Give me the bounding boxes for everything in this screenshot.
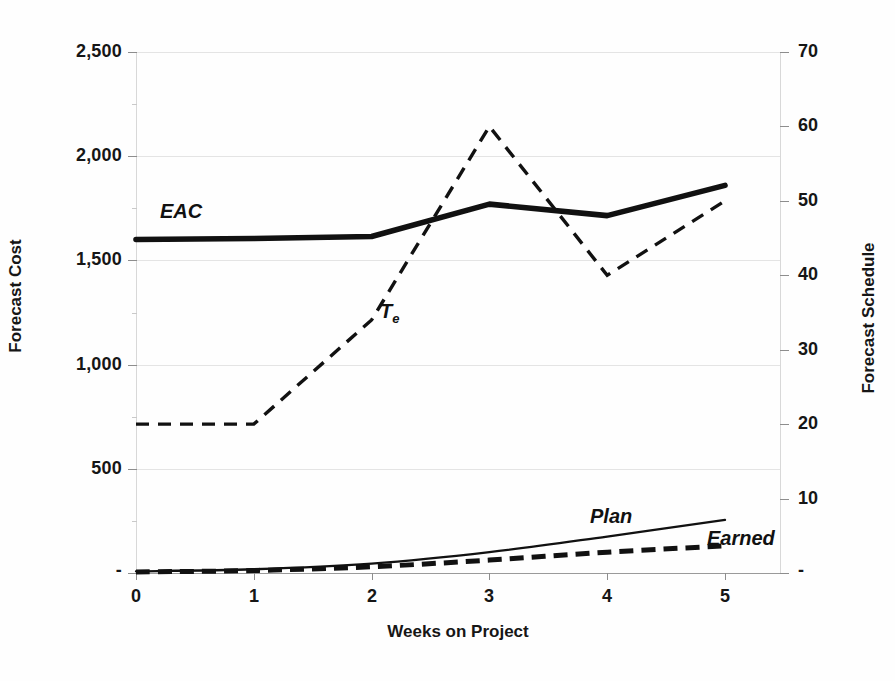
chart-figure: 2,500 2,000 1,500 1,000 500 - 70 60 50 4… <box>0 0 895 681</box>
series-label-plan: Plan <box>590 505 632 528</box>
series-layer <box>0 0 895 681</box>
series-line-eac <box>136 185 725 239</box>
series-label-eac: EAC <box>160 200 202 223</box>
series-label-earned: Earned <box>707 527 775 550</box>
series-label-te: Te <box>380 300 399 326</box>
te-base: T <box>380 300 392 322</box>
series-line-te <box>136 126 725 424</box>
te-subscript: e <box>392 311 399 326</box>
